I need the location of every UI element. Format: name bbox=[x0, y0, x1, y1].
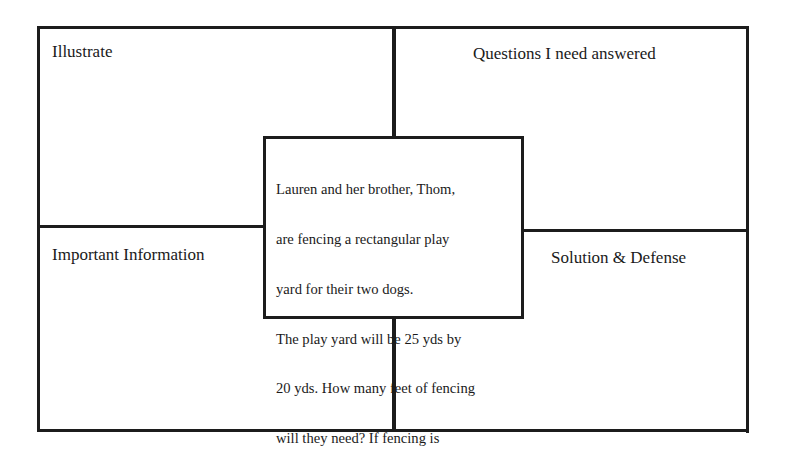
panel-illustrate-label: Illustrate bbox=[52, 42, 112, 62]
problem-line: yard for their two dogs. bbox=[276, 281, 475, 298]
problem-statement-box: Lauren and her brother, Thom, are fencin… bbox=[263, 136, 524, 319]
frame-left-border bbox=[37, 26, 40, 431]
problem-statement-text: Lauren and her brother, Thom, are fencin… bbox=[276, 148, 475, 451]
problem-line: Lauren and her brother, Thom, bbox=[276, 181, 475, 198]
problem-line: 20 yds. How many feet of fencing bbox=[276, 380, 475, 397]
problem-line: The play yard will be 25 yds by bbox=[276, 331, 475, 348]
panel-questions-label: Questions I need answered bbox=[473, 44, 656, 64]
problem-line: will they need? If fencing is bbox=[276, 430, 475, 447]
panel-important-info-label: Important Information bbox=[52, 245, 205, 265]
panel-solution-label: Solution & Defense bbox=[551, 248, 686, 268]
problem-line: are fencing a rectangular play bbox=[276, 231, 475, 248]
